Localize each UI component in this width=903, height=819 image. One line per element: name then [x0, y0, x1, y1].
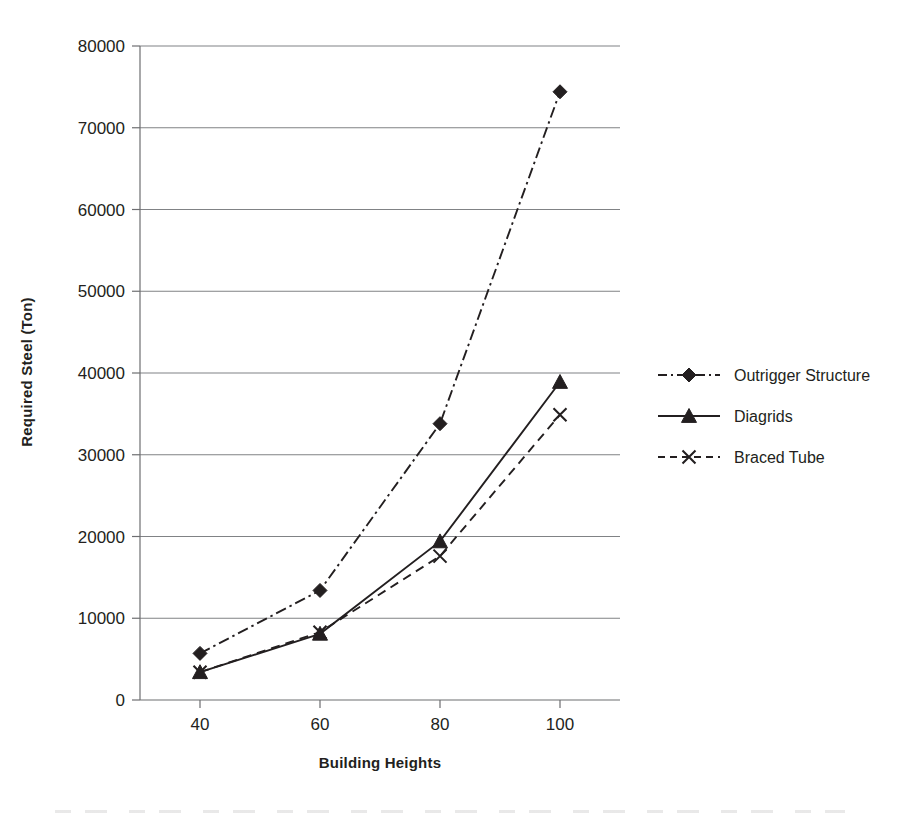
y-tick-label: 70000	[78, 119, 125, 138]
data-point-x	[434, 550, 447, 563]
x-axis-title: Building Heights	[319, 754, 441, 771]
chart-canvas: 0100002000030000400005000060000700008000…	[0, 0, 903, 819]
legend-item-2[interactable]: Diagrids	[658, 408, 793, 425]
gridline-group	[140, 46, 620, 618]
data-point-diamond	[553, 85, 567, 99]
y-tick-label: 30000	[78, 446, 125, 465]
legend-item-1[interactable]: Outrigger Structure	[658, 367, 870, 384]
data-point-diamond	[313, 583, 327, 597]
series-line	[200, 382, 560, 672]
y-tick-label: 40000	[78, 364, 125, 383]
chart-figure: 0100002000030000400005000060000700008000…	[0, 0, 903, 819]
x-tick-label: 100	[546, 715, 574, 734]
x-tick-label: 40	[191, 715, 210, 734]
series-2	[193, 374, 568, 678]
data-point-x	[554, 408, 567, 421]
x-axis-tick-labels: 406080100	[191, 715, 575, 734]
y-axis-tick-labels: 0100002000030000400005000060000700008000…	[78, 37, 125, 710]
x-tick-label: 80	[431, 715, 450, 734]
y-tick-label: 20000	[78, 528, 125, 547]
x-tick-label: 60	[311, 715, 330, 734]
y-tick-label: 10000	[78, 609, 125, 628]
series-group	[193, 85, 568, 679]
data-point-triangle	[553, 374, 568, 388]
y-tick-label: 0	[116, 691, 125, 710]
y-axis-title: Required Steel (Ton)	[18, 297, 35, 447]
scan-edge-artifact	[55, 810, 845, 813]
y-tick-label: 80000	[78, 37, 125, 56]
y-tick-label: 50000	[78, 282, 125, 301]
tick-mark-group	[132, 46, 560, 708]
data-point-diamond	[682, 368, 696, 382]
legend-label: Diagrids	[734, 408, 793, 425]
y-tick-label: 60000	[78, 201, 125, 220]
legend-item-3[interactable]: Braced Tube	[658, 449, 825, 466]
chart-legend: Outrigger StructureDiagridsBraced Tube	[658, 367, 870, 466]
legend-label: Braced Tube	[734, 449, 825, 466]
data-point-diamond	[433, 417, 447, 431]
legend-label: Outrigger Structure	[734, 367, 870, 384]
data-point-diamond	[193, 646, 207, 660]
